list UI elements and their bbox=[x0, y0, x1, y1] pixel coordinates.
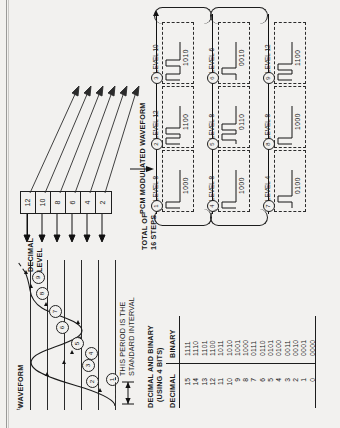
interval-note-line-1: THIS PERIOD IS THE bbox=[118, 301, 127, 376]
sample-point-8: 8 bbox=[36, 287, 49, 300]
pcm-code-2: 1100 bbox=[182, 113, 189, 130]
interval-note-line-2: STANDARD INTERVAL bbox=[127, 297, 136, 376]
pcm-level-label-8: LEVEL 8 bbox=[264, 114, 271, 139]
pcm-level-label-2: LEVEL 12 bbox=[152, 110, 159, 139]
table-header-decimal: DECIMAL bbox=[168, 374, 177, 408]
table-cell-binary: 1011 bbox=[217, 340, 224, 356]
sample-arrow bbox=[45, 372, 49, 376]
level-to-binary-mapping-lines bbox=[24, 76, 144, 196]
sample-point-2: 2 bbox=[86, 375, 99, 388]
sample-arrow bbox=[76, 320, 80, 324]
interval-dashed-line bbox=[115, 372, 116, 406]
table-cell-decimal: 15 bbox=[184, 378, 191, 392]
decimal-level-label-line-2: LEVEL bbox=[35, 248, 44, 272]
pcm-row-wrap-connector-4 bbox=[210, 7, 268, 24]
table-cell-binary: 0101 bbox=[267, 340, 274, 356]
table-cell-decimal: 3 bbox=[284, 378, 291, 392]
figure-page: WAVEFORM 1 2 bbox=[0, 0, 340, 428]
table-column-divider bbox=[166, 363, 316, 364]
pcm-row-wrap-connector-1 bbox=[154, 209, 212, 226]
table-cell-binary: 1010 bbox=[226, 340, 233, 356]
pcm-row-wrap-connector-2 bbox=[210, 209, 268, 226]
pcm-level-label-4: LEVEL 8 bbox=[208, 176, 215, 201]
table-cell-binary: 0100 bbox=[275, 340, 282, 356]
table-cell-decimal: 12 bbox=[209, 378, 216, 392]
pcm-level-label-3: LEVEL 10 bbox=[152, 44, 159, 73]
level-leader-arrows bbox=[16, 214, 112, 244]
pcm-level-label-6: LEVEL 6 bbox=[208, 48, 215, 73]
table-cell-decimal: 6 bbox=[259, 378, 266, 392]
table-cell-decimal: 11 bbox=[217, 378, 224, 392]
sample-arrow bbox=[98, 388, 102, 392]
pcm-pulse-train-3 bbox=[274, 14, 294, 214]
pcm-code-1: 1000 bbox=[182, 177, 189, 194]
table-bottom-rule bbox=[315, 316, 316, 408]
table-cell-binary: 1100 bbox=[209, 340, 216, 356]
waveform-panel: WAVEFORM 1 2 bbox=[14, 260, 136, 410]
table-header-rule bbox=[179, 316, 180, 408]
pcm-code-9: 1100 bbox=[294, 49, 301, 66]
table-cell-decimal: 7 bbox=[250, 378, 257, 392]
table-cell-decimal: 5 bbox=[267, 378, 274, 392]
sample-arrow bbox=[62, 360, 66, 364]
pcm-code-5: 0110 bbox=[238, 113, 245, 130]
table-cell-decimal: 0 bbox=[309, 378, 316, 392]
table-cell-binary: 1000 bbox=[242, 340, 249, 356]
sample-arrow bbox=[70, 350, 74, 354]
table-cell-binary: 0000 bbox=[309, 340, 316, 356]
pcm-code-3: 1010 bbox=[182, 49, 189, 66]
sample-arrow bbox=[44, 302, 48, 306]
pcm-modulated-waveform-panel: PCM MODULATED WAVEFORM 1 LEVEL 8 2 LEVEL… bbox=[150, 8, 332, 214]
sample-arrow bbox=[29, 284, 33, 288]
pcm-title: PCM MODULATED WAVEFORM bbox=[138, 102, 147, 214]
table-cell-binary: 0010 bbox=[292, 340, 299, 356]
pcm-row-1: 1 LEVEL 8 2 LEVEL 12 3 LEVEL 10 1000 bbox=[150, 8, 194, 214]
steps-note-line-1: TOTAL OF bbox=[140, 213, 149, 250]
table-cell-decimal: 8 bbox=[242, 378, 249, 392]
table-cell-binary: 1111 bbox=[184, 341, 191, 356]
pcm-level-label-5: LEVEL 8 bbox=[208, 114, 215, 139]
pcm-row-3: 7 LEVEL 4 8 LEVEL 8 9 LEVEL 12 0100 bbox=[262, 8, 306, 214]
table-cell-binary: 0110 bbox=[259, 340, 266, 356]
pcm-row-wrap-connector-3 bbox=[154, 7, 212, 24]
sample-point-7: 7 bbox=[49, 305, 62, 318]
table-cell-decimal: 14 bbox=[192, 378, 199, 392]
pcm-level-label-9: LEVEL 12 bbox=[264, 44, 271, 73]
table-cell-binary: 0011 bbox=[284, 340, 291, 356]
table-cell-binary: 1110 bbox=[192, 341, 199, 356]
table-cell-binary: 1101 bbox=[201, 340, 208, 356]
table-cell-decimal: 9 bbox=[234, 378, 241, 392]
pcm-code-8: 1000 bbox=[294, 113, 301, 130]
sample-point-5: 5 bbox=[71, 337, 84, 350]
table-cell-binary: 0001 bbox=[300, 340, 307, 356]
pcm-code-7: 0100 bbox=[294, 177, 301, 194]
rotated-figure-stage: WAVEFORM 1 2 bbox=[0, 0, 340, 428]
table-cell-decimal: 1 bbox=[300, 378, 307, 392]
table-cell-decimal: 4 bbox=[275, 378, 282, 392]
table-cell-decimal: 10 bbox=[226, 378, 233, 392]
pcm-level-label-7: LEVEL 4 bbox=[264, 176, 271, 201]
table-header-binary: BINARY bbox=[168, 330, 177, 359]
table-cell-decimal: 13 bbox=[201, 378, 208, 392]
pcm-row-2: 4 LEVEL 8 5 LEVEL 8 6 LEVEL 6 1000 bbox=[206, 8, 250, 214]
table-cell-binary: 1001 bbox=[234, 340, 241, 356]
sample-point-6: 6 bbox=[56, 321, 69, 334]
table-cell-decimal: 2 bbox=[292, 378, 299, 392]
sample-point-4: 4 bbox=[85, 347, 98, 360]
pcm-code-6: 0010 bbox=[238, 49, 245, 66]
sample-point-3: 3 bbox=[82, 359, 95, 372]
pcm-pulse-train-1 bbox=[162, 14, 182, 214]
table-title-line-1: DECIMAL AND BINARY bbox=[146, 325, 155, 408]
pcm-start-arrow bbox=[130, 162, 156, 176]
pcm-level-label-1: LEVEL 8 bbox=[152, 176, 159, 201]
pcm-pulse-train-2 bbox=[218, 14, 238, 214]
table-title-line-2: (USING 4 BITS) bbox=[155, 347, 164, 402]
pcm-code-4: 1000 bbox=[238, 177, 245, 194]
table-cell-binary: 0111 bbox=[250, 341, 257, 356]
sample-point-9: 9 bbox=[32, 271, 45, 284]
